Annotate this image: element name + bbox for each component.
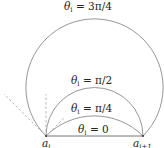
arc-diagram: θi = 3π/4 θi = π/2 θi = π/4 θi = 0 ai ai… xyxy=(0,0,164,148)
label-a-i: ai xyxy=(42,137,51,148)
label-theta-pi4: θi = π/4 xyxy=(71,102,112,116)
point-a-i-plus-1 xyxy=(142,135,144,137)
label-a-i-plus-1: ai+1 xyxy=(133,137,152,148)
label-theta-3pi4: θi = 3π/4 xyxy=(64,0,112,14)
tangent-3pi4 xyxy=(4,94,46,136)
label-theta-pi2: θi = π/2 xyxy=(71,74,112,88)
label-theta-0: θi = 0 xyxy=(78,123,109,137)
